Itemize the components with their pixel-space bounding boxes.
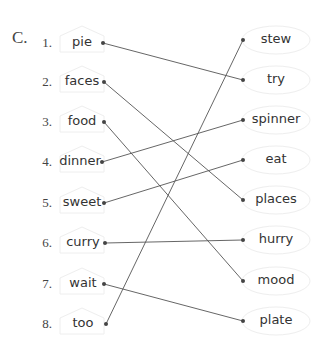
item-number: 3.	[26, 114, 52, 130]
item-number: 8.	[26, 316, 52, 332]
right-word[interactable]: hurry	[243, 231, 309, 246]
left-word[interactable]: too	[53, 315, 113, 330]
match-lines	[102, 40, 243, 324]
left-word[interactable]: faces	[52, 73, 112, 88]
right-word[interactable]: places	[243, 191, 309, 206]
right-word[interactable]: mood	[243, 272, 309, 287]
item-number: 6.	[26, 235, 52, 251]
left-word[interactable]: dinner	[50, 153, 110, 168]
left-word[interactable]: curry	[53, 234, 113, 249]
right-word[interactable]: stew	[243, 31, 309, 46]
right-word[interactable]: eat	[243, 151, 309, 166]
left-word[interactable]: pie	[52, 34, 112, 49]
left-word[interactable]: sweet	[52, 194, 112, 209]
left-word[interactable]: wait	[53, 275, 113, 290]
matching-diagram	[0, 0, 327, 353]
item-number: 1.	[26, 35, 52, 51]
item-number: 2.	[26, 74, 52, 90]
item-number: 4.	[26, 154, 52, 170]
right-word[interactable]: try	[243, 71, 309, 86]
right-word[interactable]: plate	[243, 312, 309, 327]
item-number: 7.	[26, 276, 52, 292]
left-word[interactable]: food	[52, 113, 112, 128]
right-word[interactable]: spinner	[243, 111, 309, 126]
item-number: 5.	[26, 195, 52, 211]
